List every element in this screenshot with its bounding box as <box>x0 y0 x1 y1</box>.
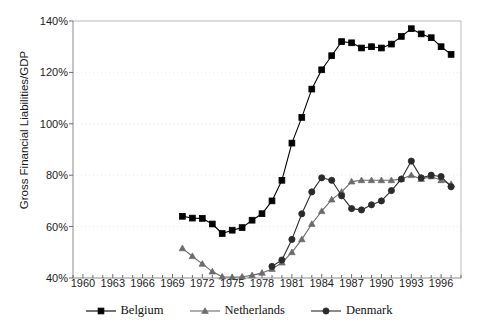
legend-marker-triangle-icon <box>190 305 220 317</box>
data-point-marker <box>448 52 454 58</box>
legend-label: Netherlands <box>225 303 285 318</box>
data-point-marker <box>408 158 414 164</box>
data-point-marker <box>299 211 305 217</box>
data-point-marker <box>448 184 454 190</box>
data-point-marker <box>329 177 335 183</box>
legend-item-belgium[interactable]: Belgium <box>86 303 164 318</box>
data-point-marker <box>418 31 424 37</box>
data-point-marker <box>339 39 345 45</box>
data-point-marker <box>369 44 375 50</box>
x-axis-tick-label: 1966 <box>130 277 154 289</box>
data-point-marker <box>279 177 285 183</box>
data-point-marker <box>219 231 225 237</box>
data-point-marker <box>428 35 434 41</box>
data-point-marker <box>398 176 404 182</box>
data-point-marker <box>379 45 385 51</box>
data-point-marker <box>269 263 275 269</box>
data-point-marker <box>428 172 434 178</box>
x-axis-tick-label: 1978 <box>250 277 274 289</box>
legend-label: Belgium <box>121 303 164 318</box>
legend-item-denmark[interactable]: Denmark <box>311 303 393 318</box>
data-point-marker <box>319 67 325 73</box>
series-line <box>182 29 451 234</box>
x-axis-tick-label: 1960 <box>71 277 95 289</box>
data-point-marker <box>438 44 444 50</box>
data-point-marker <box>339 193 345 199</box>
data-point-marker <box>239 225 245 231</box>
data-point-marker <box>378 198 384 204</box>
x-axis-tick-label: 1996 <box>429 277 453 289</box>
data-point-marker <box>289 140 295 146</box>
data-point-marker <box>249 217 255 223</box>
data-point-marker <box>309 189 315 195</box>
chart-legend: BelgiumNetherlandsDenmark <box>0 303 478 318</box>
x-axis-tick-label: 1969 <box>160 277 184 289</box>
data-point-marker <box>329 53 335 59</box>
data-point-marker <box>323 307 329 313</box>
x-axis-tick-label: 1963 <box>101 277 125 289</box>
data-point-marker <box>368 202 374 208</box>
data-point-marker <box>289 236 295 242</box>
x-axis-tick-label: 1987 <box>339 277 363 289</box>
data-point-marker <box>279 257 285 263</box>
data-point-marker <box>199 216 205 222</box>
data-point-marker <box>269 198 275 204</box>
data-point-marker <box>259 211 265 217</box>
data-point-marker <box>398 34 404 40</box>
legend-marker-square-icon <box>86 305 116 317</box>
data-point-marker <box>358 207 364 213</box>
data-point-marker <box>359 45 365 51</box>
data-point-marker <box>179 245 186 251</box>
series-line <box>182 175 451 277</box>
data-point-marker <box>388 188 394 194</box>
data-point-marker <box>319 175 325 181</box>
data-point-marker <box>98 308 104 314</box>
chart-container: Gross Financial Liabilities/GDP 40%60%80… <box>0 0 478 336</box>
data-point-marker <box>190 215 196 221</box>
series-netherlands <box>179 172 454 280</box>
data-point-marker <box>299 236 306 242</box>
data-point-marker <box>180 213 186 219</box>
x-axis-tick-label: 1993 <box>399 277 423 289</box>
data-point-marker <box>349 40 355 46</box>
data-point-marker <box>209 221 215 227</box>
x-axis-tick-label: 1984 <box>309 277 333 289</box>
data-point-marker <box>418 175 424 181</box>
data-point-marker <box>309 86 315 92</box>
legend-label: Denmark <box>346 303 393 318</box>
x-axis-tick-label: 1990 <box>369 277 393 289</box>
data-point-marker <box>229 227 235 233</box>
legend-item-netherlands[interactable]: Netherlands <box>190 303 285 318</box>
series-belgium <box>180 26 455 237</box>
x-axis-tick-label: 1975 <box>220 277 244 289</box>
data-point-marker <box>438 173 444 179</box>
data-point-marker <box>389 41 395 47</box>
x-axis-tick-label: 1972 <box>190 277 214 289</box>
data-point-marker <box>408 26 414 32</box>
legend-marker-circle-icon <box>311 305 341 317</box>
x-axis-tick-label: 1981 <box>280 277 304 289</box>
data-point-marker <box>349 206 355 212</box>
data-point-marker <box>299 115 305 121</box>
